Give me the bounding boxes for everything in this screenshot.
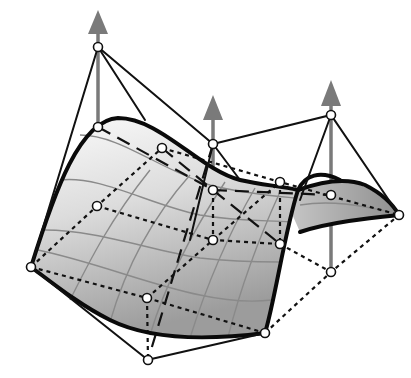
bezier-surface-diagram <box>0 0 411 378</box>
control-point[interactable] <box>327 268 336 277</box>
control-point[interactable] <box>143 294 152 303</box>
control-point[interactable] <box>327 191 336 200</box>
control-point[interactable] <box>209 140 218 149</box>
control-point[interactable] <box>94 43 103 52</box>
control-point[interactable] <box>158 144 167 153</box>
control-point[interactable] <box>94 123 103 132</box>
control-point[interactable] <box>276 178 285 187</box>
control-point[interactable] <box>327 111 336 120</box>
control-point[interactable] <box>209 186 218 195</box>
control-point[interactable] <box>209 236 218 245</box>
control-point[interactable] <box>93 202 102 211</box>
control-point[interactable] <box>144 356 153 365</box>
control-point[interactable] <box>27 263 36 272</box>
control-point[interactable] <box>276 240 285 249</box>
control-point[interactable] <box>261 329 270 338</box>
control-point[interactable] <box>395 211 404 220</box>
